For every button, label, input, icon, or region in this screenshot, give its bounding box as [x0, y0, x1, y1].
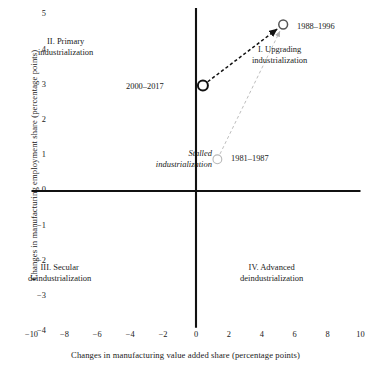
- data-label-1988-1996: 1988–1996: [297, 22, 335, 31]
- data-label-2000-2017: 2000–2017: [126, 82, 164, 91]
- quadrant-i-line2: industrialization: [252, 55, 307, 66]
- quadrant-label-ii: II. Primary industrialization: [38, 36, 93, 58]
- quadrant-ii-line2: industrialization: [38, 47, 93, 58]
- data-point-1988-1996[interactable]: [279, 20, 288, 29]
- data-label-1981-1987: 1981–1987: [231, 154, 269, 163]
- data-point-1981-1987[interactable]: [213, 155, 222, 164]
- quadrant-i-line1: I. Upgrading: [252, 44, 307, 55]
- stalled-industrialization-label: Stalled industrialization: [112, 148, 212, 170]
- quadrant-label-iv: IV. Advanced deindustrialization: [240, 262, 303, 284]
- quadrant-iii-line1: III. Secular: [28, 262, 91, 273]
- scatter-chart-figure: Changes in manufacturing employment shar…: [0, 0, 371, 368]
- point-layer: [198, 20, 288, 164]
- stalled-line1: Stalled: [112, 148, 212, 159]
- quadrant-label-i: I. Upgrading industrialization: [252, 44, 307, 66]
- stalled-line2: industrialization: [112, 159, 212, 170]
- quadrant-ii-line1: II. Primary: [38, 36, 93, 47]
- quadrant-label-iii: III. Secular deindustrialization: [28, 262, 91, 284]
- quadrant-iv-line1: IV. Advanced: [240, 262, 303, 273]
- data-point-2000-2017[interactable]: [198, 80, 208, 90]
- quadrant-iii-line2: deindustrialization: [28, 273, 91, 284]
- quadrant-iv-line2: deindustrialization: [240, 273, 303, 284]
